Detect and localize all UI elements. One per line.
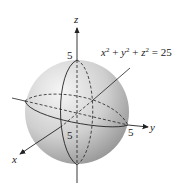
y-intercept-label: 5: [128, 126, 134, 138]
z-axis-label: z: [73, 13, 79, 25]
z-intercept-label: 5: [67, 49, 73, 61]
sphere-diagram: z y x 5 5 5 x2 + y2 + z2 = 25: [0, 0, 187, 191]
y-axis-label: y: [149, 121, 155, 133]
sphere-equation: x2 + y2 + z2 = 25: [100, 46, 172, 58]
x-axis-label: x: [11, 153, 17, 165]
x-intercept-label: 5: [67, 129, 73, 141]
sphere-figure: z y x 5 5 5 x2 + y2 + z2 = 25: [0, 0, 187, 191]
y-axis-back: [12, 98, 25, 101]
